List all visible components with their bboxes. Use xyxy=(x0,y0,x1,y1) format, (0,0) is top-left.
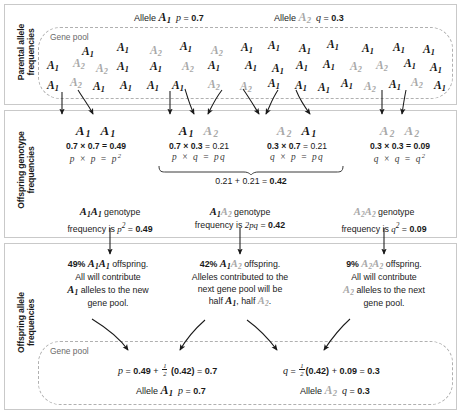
gene-pool-allele-a1: A1 xyxy=(208,59,220,73)
gene-pool-allele-a1: A1 xyxy=(272,62,284,76)
genotype-word: genotype xyxy=(104,207,140,217)
allele-glyph-a2: A2 xyxy=(361,258,372,269)
header-allele-1-glyph: A1 xyxy=(159,10,172,24)
gene-pool-allele-a2: A2 xyxy=(376,59,388,73)
gene-pool-allele-a1: A1 xyxy=(362,42,374,56)
side-label-offspring-line2: frequencies xyxy=(26,299,36,346)
genotype-symbolic-a2a2: q × q = q2 xyxy=(352,152,448,164)
gene-pool-allele-a1: A1 xyxy=(404,57,416,71)
allele-glyph-a1: A1 xyxy=(302,123,318,138)
allele-glyph-a1: A1 xyxy=(91,206,102,217)
genotype-symbolic-a2a1: q × p = pq xyxy=(250,152,344,162)
gene-pool-allele-a2: A2 xyxy=(150,44,162,58)
gene-pool-allele-a1: A1 xyxy=(296,59,308,73)
gene-pool-allele-a1: A1 xyxy=(117,41,129,55)
allele-glyph-a2: A2 xyxy=(365,206,376,217)
header-p-equals: = xyxy=(184,13,189,23)
header-allele-2-frequency: Allele A2 q = 0.3 xyxy=(274,10,344,25)
gene-pool-label-parental: Gene pool xyxy=(50,32,89,42)
fraction-one-half: 12 xyxy=(162,362,167,377)
offspring-description-a2a2: 9% A2A2 offspring. All will contribute A… xyxy=(314,258,454,310)
side-label-genotype-line1: Offspring genotype xyxy=(16,131,26,208)
fraction-one-half: 12 xyxy=(299,362,304,377)
header-p-value: 0.7 xyxy=(191,13,204,23)
genotype-column-a2a2: A2 A2 0.3 × 0.3 = 0.09 q × q = q2 xyxy=(352,123,448,164)
genotype-product-a2a1: 0.3 × 0.7 = 0.21 xyxy=(250,141,344,151)
allele-glyph-a2: A2 xyxy=(204,123,220,138)
equation-p-recalculation: p = 0.49 + 12 (0.42) = 0.7 xyxy=(118,362,217,377)
genotype-pair-a1a1: A1 A1 xyxy=(48,123,144,139)
allele-glyph-a1: A1 xyxy=(99,258,110,269)
gene-pool-allele-a1: A1 xyxy=(318,81,330,95)
gene-pool-allele-a1: A1 xyxy=(47,79,59,93)
allele-glyph-a1: A1 xyxy=(210,206,221,217)
gene-pool-allele-a1: A1 xyxy=(117,60,129,74)
gene-pool-allele-a2: A2 xyxy=(70,76,82,90)
gene-pool-allele-a1: A1 xyxy=(327,38,339,52)
gene-pool-allele-a1: A1 xyxy=(93,80,105,94)
gene-pool-allele-a1: A1 xyxy=(323,58,335,72)
gene-pool-allele-a1: A1 xyxy=(241,41,253,55)
gene-pool-allele-a1: A1 xyxy=(434,79,446,93)
gene-pool-allele-a2: A2 xyxy=(350,60,362,74)
side-label-genotype-line2: frequencies xyxy=(26,146,36,193)
allele-glyph-a2: A2 xyxy=(343,284,354,295)
allele-glyph-a2: A2 xyxy=(405,123,421,138)
final-allele-2-frequency: Allele A2 q = 0.3 xyxy=(300,383,370,398)
equation-q-recalculation: q = 12(0.42) + 0.09 = 0.3 xyxy=(283,362,380,377)
allele-glyph-a1: A1 xyxy=(80,206,91,217)
gene-pool-allele-a1: A1 xyxy=(147,79,159,93)
gene-pool-allele-a1: A1 xyxy=(423,43,435,57)
offspring-description-a1a1: 49% A1A1 offspring. All will contribute … xyxy=(40,258,176,310)
allele-glyph-a1: A1 xyxy=(67,284,78,295)
heterozygote-brace xyxy=(158,166,344,176)
genotype-symbolic-a1a1: p × p = p2 xyxy=(48,152,144,164)
allele-glyph-a2: A2 xyxy=(277,123,293,138)
genotype-column-a1a2: A1 A2 0.7 × 0.3 = 0.21 p × q = pq xyxy=(152,123,246,162)
gene-pool-allele-a1: A1 xyxy=(341,77,353,91)
gene-pool-allele-a1: A1 xyxy=(430,61,442,75)
gene-pool-allele-a1: A1 xyxy=(393,41,405,55)
allele-glyph-a1: A1 xyxy=(225,295,236,306)
genotype-product-a1a2: 0.7 × 0.3 = 0.21 xyxy=(152,141,246,151)
side-label-parental-line2: frequencies xyxy=(26,28,36,75)
genotype-caption-a1a2: A1A2 genotype frequency is 2pq = 0.42 xyxy=(170,206,310,232)
gene-pool-allele-a1: A1 xyxy=(295,79,307,93)
allele-glyph-a2: A2 xyxy=(380,123,396,138)
side-label-parental-line1: Parental allele xyxy=(16,24,26,80)
gene-pool-allele-a2: A2 xyxy=(411,76,423,90)
genotype-column-a2a1: A2 A1 0.3 × 0.7 = 0.21 q × p = pq xyxy=(250,123,344,162)
gene-pool-allele-a2: A2 xyxy=(96,62,108,76)
offspring-percent-a1a1: 49% xyxy=(68,259,86,269)
header-allele-label-2: Allele xyxy=(274,13,296,23)
header-p-symbol: p xyxy=(176,12,181,23)
offspring-percent-a2a2: 9% xyxy=(346,259,359,269)
gene-pool-allele-a2: A2 xyxy=(211,44,223,58)
allele-glyph-a1: A1 xyxy=(101,123,117,138)
genotype-pair-a2a2: A2 A2 xyxy=(352,123,448,139)
side-label-offspring-line1: Offspring allele xyxy=(16,292,26,353)
header-allele-1-frequency: Allele A1 p = 0.7 xyxy=(134,10,204,25)
gene-pool-allele-a1: A1 xyxy=(180,40,192,54)
header-q-value: 0.3 xyxy=(331,13,344,23)
gene-pool-allele-a1: A1 xyxy=(268,77,280,91)
header-allele-2-glyph: A2 xyxy=(299,10,312,24)
genotype-product-a2a2: 0.3 × 0.3 = 0.09 xyxy=(352,141,448,151)
allele-glyph-a2: A2 xyxy=(221,206,232,217)
gene-pool-allele-a2: A2 xyxy=(182,60,194,74)
genotype-pair-a1a2: A1 A2 xyxy=(152,123,246,139)
gene-pool-allele-a2: A2 xyxy=(208,78,220,92)
allele-glyph-a2: A2 xyxy=(258,295,269,306)
gene-pool-allele-a1: A1 xyxy=(268,39,280,53)
gene-pool-allele-a1: A1 xyxy=(172,79,184,93)
gene-pool-allele-a2: A2 xyxy=(240,80,252,94)
allele-glyph-a1: A1 xyxy=(179,123,195,138)
header-q-symbol: q xyxy=(316,12,321,23)
final-allele-1-frequency: Allele A1 p = 0.7 xyxy=(136,383,206,398)
allele-glyph-a2: A2 xyxy=(372,258,383,269)
allele-glyph-a1: A1 xyxy=(76,123,92,138)
genotype-word: genotype xyxy=(234,207,270,217)
gene-pool-label-offspring: Gene pool xyxy=(50,346,89,356)
allele-glyph-a1: A1 xyxy=(220,258,231,269)
gene-pool-allele-a2: A2 xyxy=(364,80,376,94)
